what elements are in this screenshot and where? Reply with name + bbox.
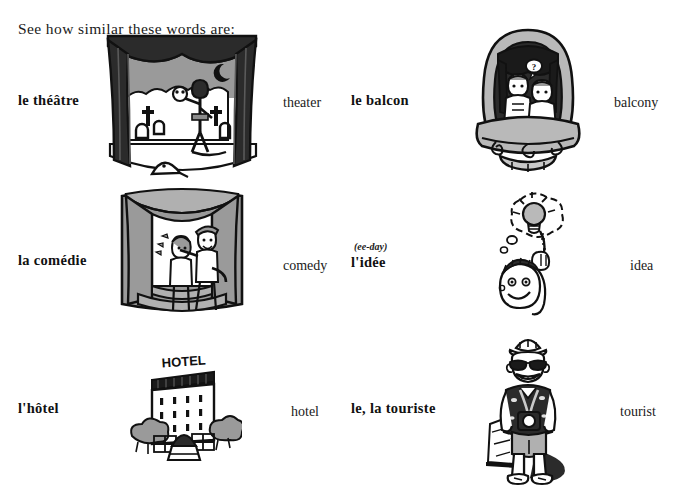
english-term-comedy: comedy bbox=[283, 258, 327, 274]
french-term-idee: l'idée bbox=[351, 254, 386, 271]
vocabulary-page: See how similar these words are: le théâ… bbox=[0, 0, 683, 492]
hotel-building-illustration: HOTEL bbox=[126, 350, 242, 462]
french-term-touriste: le, la touriste bbox=[351, 400, 436, 417]
french-term-hotel: l'hôtel bbox=[18, 400, 59, 417]
comedy-stage-illustration bbox=[112, 182, 252, 322]
svg-text:?: ? bbox=[532, 62, 537, 72]
french-term-theatre: le théâtre bbox=[18, 92, 79, 109]
french-term-balcon: le balcon bbox=[351, 92, 409, 109]
english-term-hotel: hotel bbox=[291, 404, 319, 420]
theater-stage-illustration bbox=[96, 34, 268, 182]
english-term-idea: idea bbox=[630, 258, 653, 274]
opera-balcony-illustration: ? bbox=[472, 26, 584, 176]
tourist-person-illustration bbox=[472, 332, 584, 488]
lightbulb-idea-illustration bbox=[486, 182, 582, 322]
english-term-tourist: tourist bbox=[620, 404, 656, 420]
french-term-comedie: la comédie bbox=[18, 252, 87, 269]
english-term-theater: theater bbox=[283, 95, 321, 111]
pronunciation-idee: (ee-day) bbox=[354, 241, 387, 252]
hotel-sign-text: HOTEL bbox=[161, 352, 206, 370]
english-term-balcony: balcony bbox=[614, 95, 658, 111]
